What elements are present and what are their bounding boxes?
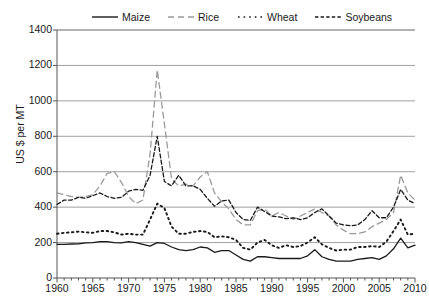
plot-area bbox=[0, 0, 429, 306]
series-line-wheat bbox=[57, 204, 415, 251]
series-line-maize bbox=[57, 238, 415, 261]
data-series bbox=[57, 70, 415, 261]
price-chart: Maize Rice Wheat Soybeans US $ per MT 14… bbox=[0, 0, 429, 306]
gridlines bbox=[57, 30, 415, 243]
series-line-soybeans bbox=[57, 136, 415, 225]
axis-ticks bbox=[53, 30, 415, 283]
series-line-rice bbox=[57, 70, 415, 234]
